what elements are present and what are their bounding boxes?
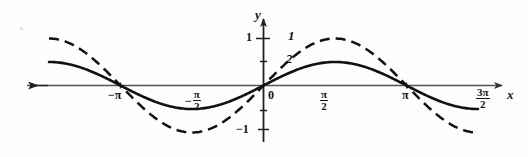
origin-label-0: 0 [268,89,274,101]
fraction-denominator: 2 [193,100,201,112]
curve-label-2: 2 [286,52,293,65]
fraction-denominator: 2 [476,98,490,110]
fraction-three-pi-over-2: 3π2 [476,87,490,110]
fraction-pi-over-2: π2 [193,89,201,112]
y-tick-label-minus-1: −1 [236,123,249,135]
minus-sign-glyph: − [185,95,192,107]
fraction-pi-over-2: π2 [320,89,328,112]
x-axis-label: x [507,88,514,101]
plot-canvas [0,0,528,157]
x-tick-label-pi-over-2: π2 [320,89,328,112]
x-tick-label-pi: π [402,89,409,101]
scan-speck [20,27,23,30]
y-tick-label-1: 1 [246,31,252,43]
fraction-numerator: π [193,89,201,100]
sine-curves-figure: y x 1 −1 0 −π π −π2 π2 3π2 1 2 [0,0,528,157]
fraction-numerator: π [320,89,328,100]
fraction-denominator: 2 [320,100,328,112]
x-tick-label-minus-pi-over-2: −π2 [185,89,201,112]
fraction-numerator: 3π [476,87,490,98]
curve-label-1: 1 [288,29,295,42]
x-tick-label-three-pi-over-2: 3π2 [476,87,490,110]
x-tick-label-minus-pi: −π [108,89,121,101]
y-axis-label: y [255,8,261,21]
